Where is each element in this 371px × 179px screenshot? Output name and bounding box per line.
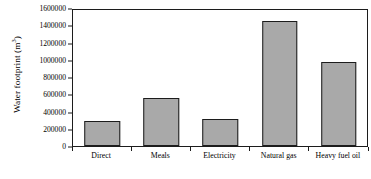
bar-slot bbox=[250, 10, 309, 146]
bar bbox=[262, 21, 298, 146]
x-axis-tick-mark bbox=[249, 147, 250, 151]
bar-series bbox=[73, 10, 367, 146]
x-axis-tick-mark bbox=[368, 147, 369, 151]
bar-slot bbox=[191, 10, 250, 146]
x-axis-tick-mark bbox=[72, 147, 73, 151]
x-axis-category-label: Heavy fuel oil bbox=[316, 152, 361, 160]
x-axis-category-label: Meals bbox=[151, 152, 170, 160]
y-axis-tick-label: 1400000 bbox=[39, 22, 66, 30]
bar-slot bbox=[309, 10, 368, 146]
x-axis-category-label: Natural gas bbox=[261, 152, 297, 160]
y-axis-tick-label: 600000 bbox=[43, 91, 66, 99]
x-axis-category-label: Direct bbox=[91, 152, 110, 160]
bar bbox=[203, 119, 239, 146]
bar-slot bbox=[73, 10, 132, 146]
x-axis-tick-mark bbox=[308, 147, 309, 151]
y-axis-tick-label: 1000000 bbox=[39, 57, 66, 65]
y-axis-tick-label: 200000 bbox=[43, 126, 66, 134]
bar bbox=[84, 121, 120, 146]
bar-slot bbox=[132, 10, 191, 146]
bar bbox=[144, 98, 180, 146]
y-axis-title: Water footprint (m3) bbox=[6, 0, 28, 150]
x-axis-category-labels: DirectMealsElectricityNatural gasHeavy f… bbox=[72, 152, 368, 168]
y-axis-tick-label: 800000 bbox=[43, 74, 66, 82]
x-axis-tick-mark bbox=[190, 147, 191, 151]
y-axis-title-text: Water footprint (m bbox=[11, 43, 21, 113]
y-axis-tick-label: 1200000 bbox=[39, 40, 66, 48]
y-axis-title-suffix: ) bbox=[11, 37, 21, 40]
y-axis-tick-label: 400000 bbox=[43, 109, 66, 117]
x-axis-category-label: Electricity bbox=[203, 152, 235, 160]
y-axis-tick-labels: 0200000400000600000800000100000012000001… bbox=[26, 9, 66, 147]
y-axis-tick-label: 1600000 bbox=[39, 5, 66, 13]
bar bbox=[321, 62, 357, 146]
x-axis-tick-mark bbox=[131, 147, 132, 151]
plot-area bbox=[72, 9, 368, 147]
bar-chart-figure: Water footprint (m3) 0200000400000600000… bbox=[0, 0, 371, 179]
y-axis-title-superscript: 3 bbox=[9, 40, 16, 43]
y-axis-tick-label: 0 bbox=[62, 143, 66, 151]
